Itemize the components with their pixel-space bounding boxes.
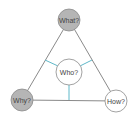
connector-who-left	[45, 60, 58, 66]
node-how-label: How?	[107, 98, 125, 105]
node-who: Who?	[56, 59, 82, 85]
question-triangle-diagram: What? Why? How? Who?	[0, 0, 139, 124]
connector-who-right	[80, 60, 92, 66]
node-what-label: What?	[59, 17, 79, 24]
node-why: Why?	[11, 89, 33, 111]
edge-what-how	[69, 20, 116, 101]
node-who-label: Who?	[60, 69, 78, 76]
node-why-label: Why?	[13, 97, 31, 105]
node-how: How?	[105, 90, 127, 112]
node-what: What?	[58, 9, 80, 31]
edge-why-how	[22, 100, 116, 101]
